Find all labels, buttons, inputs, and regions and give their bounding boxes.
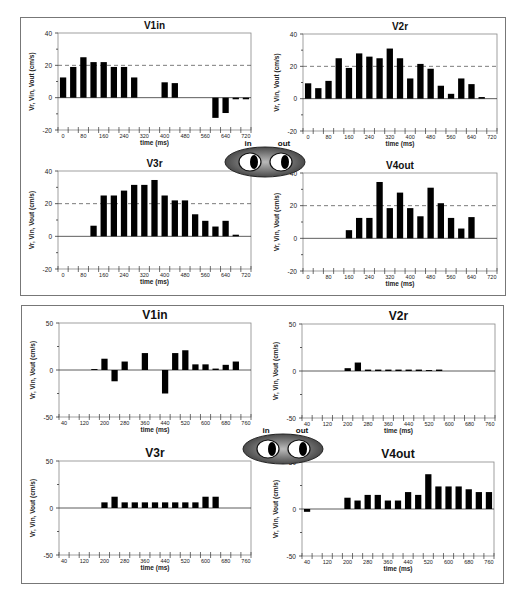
bar (304, 509, 310, 512)
svg-text:520: 520 (424, 559, 433, 565)
bar (192, 214, 198, 236)
svg-text:80: 80 (325, 274, 331, 280)
svg-text:20: 20 (290, 63, 298, 70)
svg-text:720: 720 (487, 274, 496, 280)
svg-text:240: 240 (119, 133, 128, 139)
chart-title: V1in (142, 308, 167, 322)
svg-text:640: 640 (221, 272, 230, 278)
svg-text:560: 560 (446, 134, 455, 140)
svg-text:time (ms): time (ms) (384, 565, 413, 573)
bar (468, 84, 474, 99)
svg-text:40: 40 (61, 420, 67, 426)
svg-text:0: 0 (49, 505, 53, 512)
svg-text:in: in (244, 139, 251, 148)
svg-text:120: 120 (80, 420, 89, 426)
bar (366, 218, 372, 238)
bar (375, 495, 381, 509)
svg-text:560: 560 (446, 274, 455, 280)
bar (425, 474, 431, 509)
bar (395, 370, 401, 371)
svg-text:Vr, Vin, Vout (cm/s): Vr, Vin, Vout (cm/s) (272, 480, 280, 538)
bar (243, 98, 249, 100)
chart-bottom-v1in: V1in-50050Vr, Vin, Vout (cm/s)4012020028… (23, 307, 255, 439)
bar (415, 495, 421, 509)
bar (356, 218, 362, 238)
svg-text:time (ms): time (ms) (141, 426, 170, 434)
chart-top-v1in: V1in-2002040Vr, Vin, Vout (cm/s)08016024… (22, 17, 255, 152)
bar (212, 227, 218, 237)
bar (448, 94, 454, 99)
svg-text:600: 600 (201, 420, 210, 426)
svg-text:time (ms): time (ms) (140, 139, 169, 147)
svg-text:-50: -50 (44, 552, 54, 559)
svg-text:200: 200 (343, 559, 352, 565)
svg-text:time (ms): time (ms) (386, 280, 415, 288)
bar (172, 502, 178, 508)
svg-text:600: 600 (444, 559, 453, 565)
bar (121, 191, 127, 237)
bar (448, 218, 454, 238)
bar (141, 185, 147, 236)
chart-top-v2r: V2r-2002040Vr, Vin, Vout (cm/s)080160240… (267, 18, 501, 153)
bar (152, 502, 158, 508)
bar (151, 180, 157, 236)
bar (438, 86, 444, 99)
svg-text:120: 120 (80, 558, 89, 564)
svg-text:Vr, Vin, Vout (cm/s): Vr, Vin, Vout (cm/s) (273, 193, 281, 251)
svg-text:0: 0 (49, 367, 53, 374)
svg-text:600: 600 (201, 558, 210, 564)
svg-text:280: 280 (120, 558, 129, 564)
svg-text:20: 20 (45, 200, 53, 207)
bar (486, 492, 492, 509)
svg-text:Vr, Vin, Vout (cm/s): Vr, Vin, Vout (cm/s) (28, 52, 36, 110)
bar (375, 370, 381, 371)
svg-text:280: 280 (120, 420, 129, 426)
bar (346, 68, 352, 99)
svg-text:40: 40 (290, 31, 298, 38)
svg-text:80: 80 (325, 134, 331, 140)
bar (346, 230, 352, 238)
bar (417, 216, 423, 238)
bar (427, 188, 433, 239)
svg-text:in: in (262, 426, 269, 435)
bar (192, 502, 198, 508)
bar (407, 78, 413, 98)
bar (90, 62, 96, 98)
bar (111, 67, 117, 98)
svg-text:out: out (296, 426, 309, 435)
bar (122, 362, 128, 370)
bar (435, 486, 441, 509)
svg-text:-20: -20 (288, 268, 298, 275)
bar (142, 502, 148, 508)
chart-bottom-v2r: V2r-50050Vr, Vin, Vout (cm/s)40120200280… (266, 308, 499, 440)
bar (455, 486, 461, 509)
bar (172, 353, 178, 370)
svg-text:160: 160 (99, 272, 108, 278)
svg-text:600: 600 (445, 421, 454, 427)
bar (438, 203, 444, 238)
svg-text:time (ms): time (ms) (140, 278, 169, 286)
chart-title: V3r (145, 446, 165, 460)
svg-text:50: 50 (289, 321, 297, 328)
svg-text:out: out (278, 139, 291, 148)
svg-text:80: 80 (80, 272, 86, 278)
bar (162, 82, 168, 97)
bar (162, 370, 168, 394)
bar (355, 363, 361, 371)
svg-text:480: 480 (426, 274, 435, 280)
chart-title: V1in (144, 20, 165, 31)
bar (111, 370, 117, 381)
bar (427, 69, 433, 99)
bar (182, 502, 188, 508)
bar (233, 235, 239, 237)
bar (222, 221, 228, 237)
svg-text:-50: -50 (287, 553, 297, 560)
bar (192, 364, 198, 370)
bar (142, 353, 148, 370)
bar (202, 221, 208, 237)
svg-text:200: 200 (343, 421, 352, 427)
svg-text:50: 50 (46, 320, 54, 327)
svg-text:120: 120 (323, 559, 332, 565)
svg-text:0: 0 (62, 133, 65, 139)
bar (315, 88, 321, 99)
